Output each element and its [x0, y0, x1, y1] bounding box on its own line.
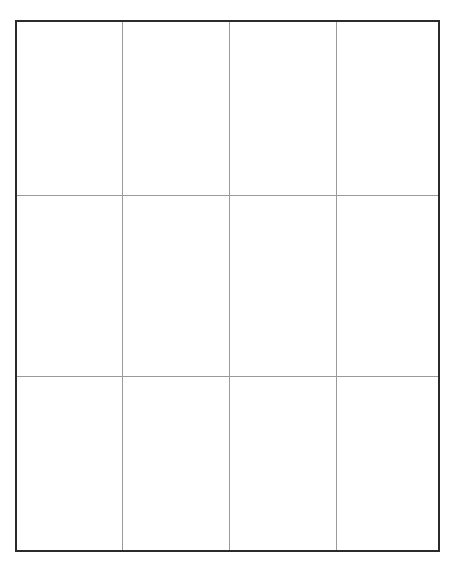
table-cell[interactable] — [230, 196, 337, 376]
table-row — [17, 196, 438, 377]
table-row — [17, 377, 438, 550]
table-cell[interactable] — [337, 377, 438, 550]
table-cell[interactable] — [123, 196, 230, 376]
page-canvas — [0, 0, 458, 570]
table-cell[interactable] — [230, 22, 337, 195]
table-cell[interactable] — [337, 22, 438, 195]
table-cell[interactable] — [17, 22, 123, 195]
table-cell[interactable] — [17, 377, 123, 550]
table-cell[interactable] — [337, 196, 438, 376]
table-cell[interactable] — [230, 377, 337, 550]
table-cell[interactable] — [17, 196, 123, 376]
grid-table — [15, 20, 440, 552]
table-cell[interactable] — [123, 377, 230, 550]
table-row — [17, 22, 438, 196]
table-cell[interactable] — [123, 22, 230, 195]
